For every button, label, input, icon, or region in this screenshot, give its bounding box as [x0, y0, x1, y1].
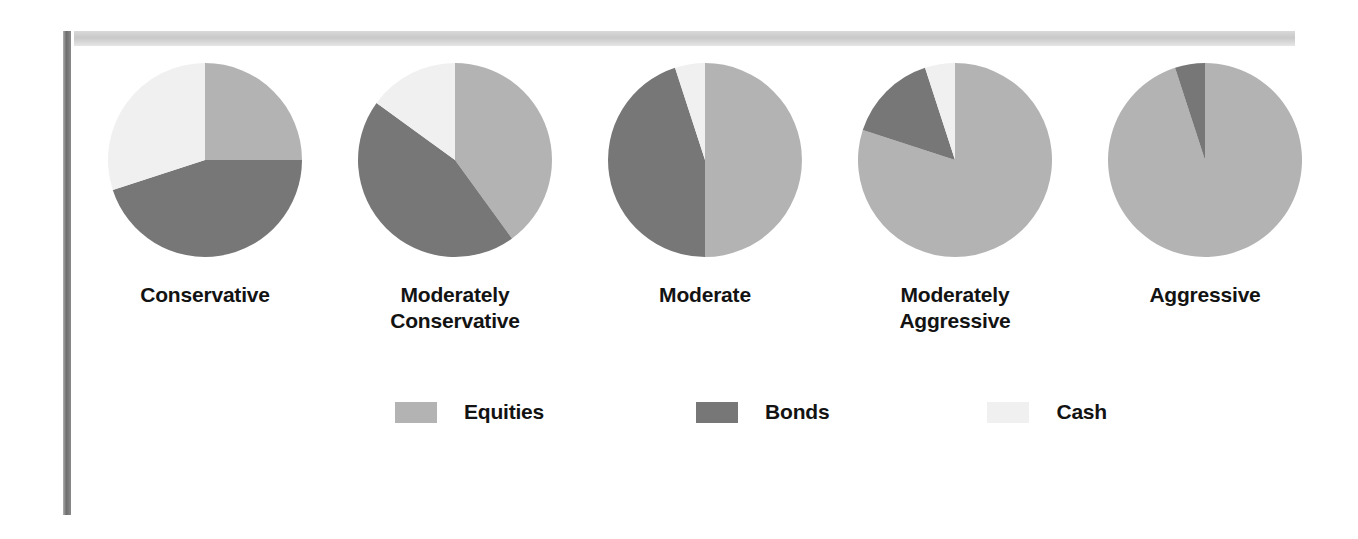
pie-slice-equities [1108, 63, 1302, 257]
top-rule-decoration [74, 31, 1295, 46]
pie-chart-2 [355, 60, 555, 260]
pie-label: Conservative [140, 282, 270, 308]
pie-cell: Moderately Conservative [340, 60, 570, 334]
pie-chart-1 [105, 60, 305, 260]
pie-label: Moderately Conservative [390, 282, 520, 334]
legend-label-cash: Cash [1056, 400, 1107, 424]
pie-slice-equities [705, 63, 802, 257]
pie-chart-figure: ConservativeModerately ConservativeModer… [0, 0, 1358, 539]
legend-item-cash: Cash [987, 400, 1107, 424]
pie-slice-equities [205, 63, 302, 160]
pie-cell: Conservative [90, 60, 320, 308]
pie-cell: Aggressive [1090, 60, 1320, 308]
chart-area: ConservativeModerately ConservativeModer… [90, 60, 1320, 480]
pie-chart-5 [1105, 60, 1305, 260]
legend-label-equities: Equities [464, 400, 544, 424]
pie-cell: Moderate [590, 60, 820, 308]
chart-legend: Equities Bonds Cash [190, 400, 1190, 424]
pie-label: Moderately Aggressive [899, 282, 1010, 334]
pie-chart-4 [855, 60, 1055, 260]
legend-item-equities: Equities [395, 400, 544, 424]
legend-swatch-bonds [696, 402, 738, 423]
legend-swatch-equities [395, 402, 437, 423]
pie-label: Aggressive [1149, 282, 1260, 308]
legend-item-bonds: Bonds [696, 400, 829, 424]
left-rule-decoration [63, 31, 71, 515]
legend-swatch-cash [987, 402, 1029, 423]
pie-chart-3 [605, 60, 805, 260]
legend-label-bonds: Bonds [765, 400, 829, 424]
pie-label: Moderate [659, 282, 751, 308]
pie-cell: Moderately Aggressive [840, 60, 1070, 334]
pie-row: ConservativeModerately ConservativeModer… [90, 60, 1320, 370]
